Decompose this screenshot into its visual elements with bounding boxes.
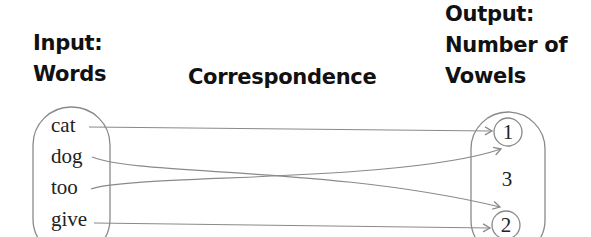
arrow-too-to-1: [91, 149, 501, 189]
domain-item-give: give: [51, 207, 87, 231]
range-item-3: 3: [495, 167, 519, 191]
mapping-diagram: [0, 0, 591, 237]
arrow-cat-to-1: [89, 127, 492, 131]
arrow-give-to-2: [94, 223, 490, 228]
domain-item-too: too: [51, 175, 78, 199]
range-item-2: 2: [494, 213, 518, 237]
range-item-1: 1: [496, 120, 520, 144]
domain-item-cat: cat: [51, 113, 75, 137]
domain-item-dog: dog: [51, 144, 83, 168]
